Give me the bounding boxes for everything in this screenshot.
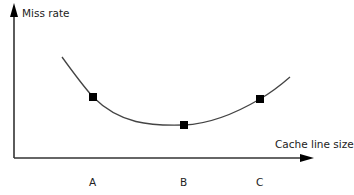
x-tick-a: A [89,176,96,188]
x-axis-arrow-icon [300,154,314,162]
marker-b [180,121,188,129]
y-axis-arrow-icon [10,3,18,17]
y-axis-label: Miss rate [22,7,70,19]
miss-rate-curve [62,57,290,125]
marker-a [89,93,97,101]
chart-canvas [0,0,354,195]
x-tick-c: C [256,176,263,188]
marker-c [256,95,264,103]
x-tick-b: B [180,176,187,188]
x-axis-label: Cache line size [275,138,354,150]
